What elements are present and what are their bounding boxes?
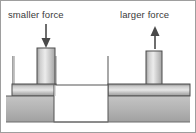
piston-rod-right [146,51,162,85]
wall-left-outer [12,56,15,85]
piston-plate-right [108,84,190,96]
wall-right-inner [107,56,109,85]
vessel-block-left [6,96,54,122]
label-larger-force: larger force [120,9,169,20]
label-smaller-force: smaller force [8,9,64,20]
vessel-block-right [108,96,190,122]
hydraulic-press-diagram: smaller force larger force [0,0,196,133]
piston-plate-left [12,84,56,96]
piston-rod-left [37,48,55,85]
fluid-cavity [54,85,108,122]
diagram-canvas: smaller force larger force [0,0,196,133]
